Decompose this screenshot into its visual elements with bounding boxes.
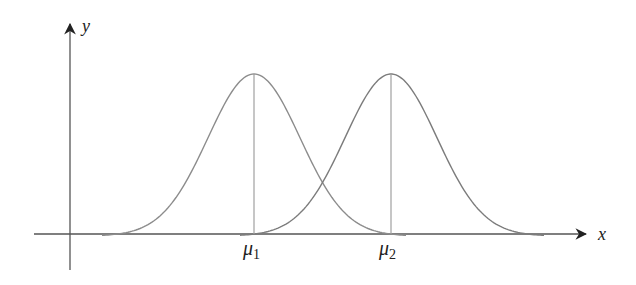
x-axis-label: x bbox=[597, 224, 606, 244]
normal-curve-2 bbox=[240, 74, 544, 235]
tick-label-mu1: μ1 bbox=[242, 237, 260, 262]
chart-canvas: y x μ1 μ2 bbox=[0, 0, 636, 285]
tick-label-mu2: μ2 bbox=[378, 237, 396, 262]
y-axis-label: y bbox=[80, 16, 90, 36]
